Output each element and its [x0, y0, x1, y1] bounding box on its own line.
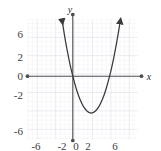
grid-lines [27, 20, 137, 140]
x-tick-label-0: 0 [73, 140, 79, 151]
y-tick-label-6: 6 [18, 28, 24, 40]
x-tick-label-neg2: -2 [57, 140, 66, 151]
y-tick-label-0: 0 [18, 70, 24, 82]
x-tick-label-2: 2 [85, 140, 91, 151]
x-tick-label-neg6: -6 [31, 140, 41, 151]
graph-figure: x y 6 2 0 -2 -6 -6 -2 0 2 6 [0, 0, 161, 151]
x-axis-label: x [146, 71, 152, 82]
y-tick-label-neg2: -2 [14, 89, 23, 101]
y-tick-label-neg6: -6 [14, 125, 24, 137]
y-axis-label: y [67, 4, 73, 15]
coordinate-plot: x y 6 2 0 -2 -6 -6 -2 0 2 6 [0, 0, 161, 151]
y-tick-label-2: 2 [18, 51, 24, 63]
x-tick-label-6: 6 [112, 140, 118, 151]
major-gridlines [27, 20, 137, 140]
